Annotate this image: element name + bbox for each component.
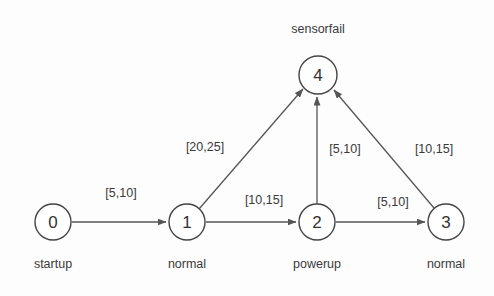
edge-label-3-to-4: [10,15] — [415, 142, 453, 156]
node-1[interactable]: 1 — [169, 204, 205, 240]
node-caption-normal-3: normal — [427, 257, 465, 271]
svg-text:2: 2 — [312, 213, 321, 232]
svg-text:3: 3 — [441, 213, 450, 232]
svg-text:1: 1 — [182, 213, 191, 232]
node-3[interactable]: 3 — [428, 204, 464, 240]
edge-label-1-to-4: [20,25] — [186, 140, 224, 154]
node-0[interactable]: 0 — [35, 204, 71, 240]
node-caption-startup: startup — [34, 257, 72, 271]
state-diagram-canvas: 0 1 2 3 4 sensorfail startup normal powe… — [0, 0, 494, 296]
svg-text:4: 4 — [313, 66, 322, 85]
node-caption-powerup: powerup — [293, 257, 341, 271]
edge-label-1-to-2: [10,15] — [245, 193, 283, 207]
node-caption-sensorfail: sensorfail — [291, 22, 345, 36]
node-2[interactable]: 2 — [299, 204, 335, 240]
edge-label-2-to-4: [5,10] — [329, 142, 360, 156]
node-caption-normal-1: normal — [168, 257, 206, 271]
edge-label-2-to-3: [5,10] — [377, 195, 408, 209]
node-4[interactable]: 4 — [299, 56, 337, 94]
svg-text:0: 0 — [48, 213, 57, 232]
edge-label-0-to-1: [5,10] — [105, 186, 136, 200]
